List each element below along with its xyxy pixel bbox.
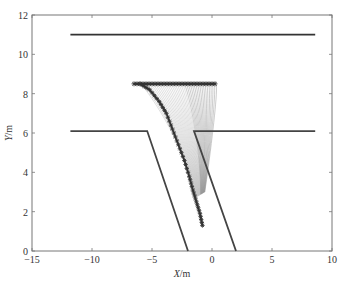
y-tick-label: 0 [23, 246, 28, 257]
x-tick-label: 5 [270, 254, 275, 265]
y-axis-label: Y/m [3, 125, 14, 141]
lower-left-boundary [70, 131, 188, 251]
y-tick-label: 4 [23, 167, 28, 178]
x-axis-label: X/m [173, 268, 191, 279]
lower-right-boundary [194, 131, 315, 251]
x-tick-label: 10 [327, 254, 337, 265]
y-tick-label: 6 [23, 128, 28, 139]
x-tick-label: −10 [84, 254, 100, 265]
y-tick-label: 8 [23, 89, 28, 100]
x-tick-label: −5 [147, 254, 158, 265]
y-tick-label: 2 [23, 207, 28, 218]
x-tick-label: 0 [210, 254, 215, 265]
trajectory-fan [140, 83, 217, 198]
y-tick-label: 12 [18, 10, 28, 21]
chart-plot: −15−10−50510024681012 X/m Y/m [0, 0, 347, 285]
y-tick-label: 10 [18, 49, 28, 60]
